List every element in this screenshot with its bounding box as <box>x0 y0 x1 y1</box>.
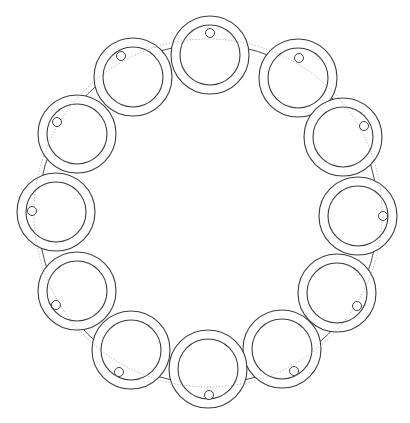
ring-outer-circle <box>171 16 249 94</box>
marker-circle-12 <box>117 52 126 61</box>
ring-outer-circle <box>92 311 170 389</box>
ring-outer-circle <box>94 38 172 116</box>
marker-circle-8 <box>115 368 124 377</box>
ring-3 <box>304 98 382 176</box>
rings-layer <box>17 16 397 408</box>
marker-circle-6 <box>290 367 299 376</box>
marker-circle-9 <box>52 301 61 310</box>
marker-circle-3 <box>360 122 369 131</box>
marker-circle-11 <box>53 118 62 127</box>
ring-11 <box>38 95 116 173</box>
diagram-canvas <box>0 0 410 423</box>
ring-outer-circle <box>298 254 376 332</box>
marker-circle-1 <box>206 29 215 38</box>
ring-1 <box>171 16 249 94</box>
ring-12 <box>94 38 172 116</box>
marker-circle-4 <box>379 212 388 221</box>
marker-circle-10 <box>28 207 37 216</box>
ring-outer-circle <box>38 252 116 330</box>
ring-5 <box>298 254 376 332</box>
marker-circle-5 <box>353 302 362 311</box>
ring-outer-circle <box>38 95 116 173</box>
marker-circle-7 <box>205 391 214 400</box>
ring-9 <box>38 252 116 330</box>
ring-outer-circle <box>304 98 382 176</box>
ring-6 <box>243 310 321 388</box>
ring-diagram <box>0 0 410 423</box>
ring-outer-circle <box>243 310 321 388</box>
marker-circle-2 <box>295 54 304 63</box>
ring-8 <box>92 311 170 389</box>
